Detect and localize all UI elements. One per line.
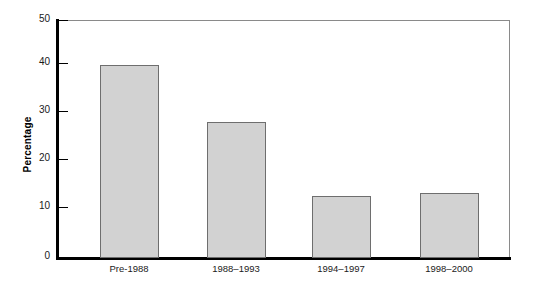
y-tick-label-30-text: 30 (39, 104, 50, 115)
y-tick-20 (59, 159, 68, 160)
bar-chart: Percentage 50 40 30 20 10 0 Pre-1988 198… (0, 0, 544, 289)
x-tick-label-3: 1998–2000 (425, 263, 473, 274)
bar-3 (420, 193, 479, 258)
y-tick-0 (59, 257, 68, 258)
x-tick-label-1: 1988–1993 (212, 263, 260, 274)
y-tick-label-10-text: 10 (39, 200, 50, 211)
bar-1 (207, 122, 266, 258)
bar-0 (100, 65, 159, 258)
bar-2 (312, 196, 371, 258)
x-tick-label-2: 1994–1997 (317, 263, 365, 274)
y-tick-40 (59, 63, 68, 64)
y-axis-line (56, 19, 59, 260)
y-tick-30 (59, 111, 68, 112)
y-tick-label-0-text: 0 (44, 250, 50, 261)
y-tick-50 (59, 20, 68, 21)
y-tick-10 (59, 207, 68, 208)
x-tick-label-0: Pre-1988 (109, 263, 148, 274)
y-axis-title: Percentage (18, 0, 36, 289)
y-tick-label-20-text: 20 (39, 152, 50, 163)
y-tick-label-50-text: 50 (39, 13, 50, 24)
y-tick-label-40-text: 40 (39, 56, 50, 67)
